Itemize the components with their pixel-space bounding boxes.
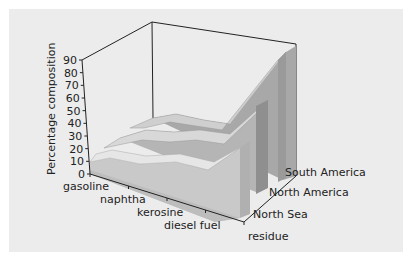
y-tick-label: 80 xyxy=(64,67,78,80)
y-tick-label: 10 xyxy=(70,155,84,168)
y-axis-title: Percentage composition xyxy=(45,43,58,175)
series-labels: North SeaNorth AmericaSouth America xyxy=(253,166,366,221)
category-label: diesel fuel xyxy=(164,219,221,232)
category-label: kerosine xyxy=(137,206,184,219)
y-tick-label: 30 xyxy=(68,130,82,143)
y-tick-label: 40 xyxy=(67,117,81,130)
3d-area-chart: 0102030405060708090 gasolinenaphthakeros… xyxy=(0,0,410,257)
series-label: North Sea xyxy=(253,208,308,221)
category-label: residue xyxy=(248,230,289,243)
y-tick-label: 50 xyxy=(67,105,81,118)
series-label: South America xyxy=(285,166,366,179)
category-label: gasoline xyxy=(63,180,109,193)
y-tick-label: 70 xyxy=(65,79,79,92)
category-label: naphtha xyxy=(100,193,146,206)
y-tick-label: 20 xyxy=(69,143,83,156)
y-tick-label: 90 xyxy=(63,54,77,67)
series-label: North America xyxy=(269,186,349,199)
y-tick-label: 60 xyxy=(66,92,80,105)
